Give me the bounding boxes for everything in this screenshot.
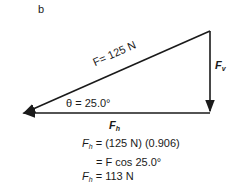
- eq1-lhs: F: [82, 137, 89, 149]
- vertical-label-sub: v: [222, 65, 226, 72]
- angle-label: θ = 25.0°: [66, 97, 110, 109]
- vertical-label-text: F: [215, 59, 222, 71]
- eq1-rhs: = (125 N) (0.906): [93, 137, 180, 149]
- horizontal-label-text: F: [109, 119, 116, 131]
- horizontal-label-sub: h: [116, 125, 120, 132]
- horizontal-label: Fh: [109, 119, 120, 132]
- eq3-rhs: = 113 N: [93, 170, 134, 182]
- equation-line-3: Fh = 113 N: [82, 170, 134, 183]
- hypotenuse-vector: [24, 31, 210, 113]
- equation-line-1: Fh = (125 N) (0.906): [82, 137, 180, 150]
- vertical-label: Fv: [215, 59, 226, 72]
- eq2-rhs: = F cos 25.0°: [96, 156, 161, 168]
- eq3-lhs: F: [82, 170, 89, 182]
- equation-line-2: = F cos 25.0°: [96, 156, 161, 168]
